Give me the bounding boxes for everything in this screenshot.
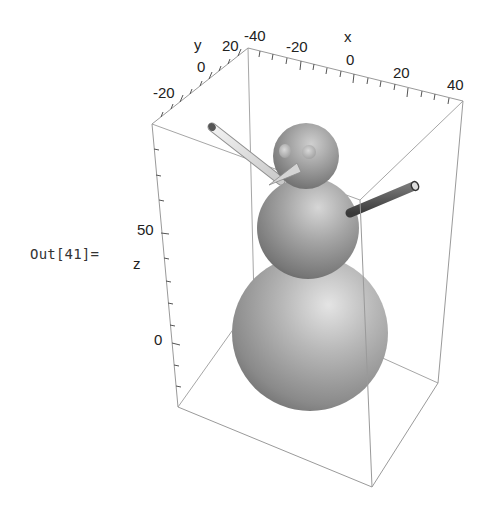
- left-arm-stick: [207, 122, 281, 181]
- x-tick-label: -20: [286, 38, 308, 55]
- y-tick-label: 20: [222, 37, 239, 54]
- y-tick-label: 0: [197, 58, 205, 75]
- x-tick-label: 40: [447, 76, 464, 93]
- y-tick-label: -20: [153, 84, 175, 101]
- z-axis-label: z: [133, 255, 141, 272]
- x-tick-label: 0: [346, 51, 354, 68]
- snowman-3d-plot[interactable]: y -20 0 20 x -40 -20 0 20 40 z: [0, 0, 488, 508]
- x-axis-label: x: [344, 28, 352, 45]
- z-tick-label: 0: [154, 331, 162, 348]
- middle-sphere: [257, 177, 359, 279]
- x-tick-label: 20: [393, 64, 410, 81]
- y-axis-label: y: [194, 36, 202, 53]
- left-eye: [279, 144, 291, 158]
- right-eye: [302, 145, 316, 159]
- z-tick-label: 50: [137, 221, 154, 238]
- x-tick-label: -40: [244, 27, 266, 44]
